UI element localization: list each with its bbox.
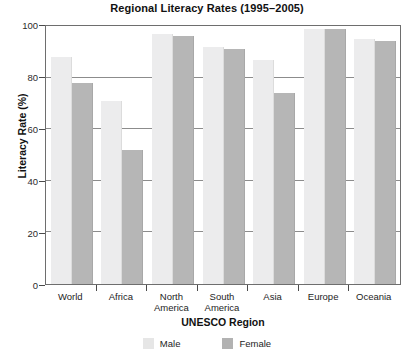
legend-label-female: Female [239, 338, 271, 349]
bar-africa-female [122, 150, 143, 284]
x-axis-category-line1: South [197, 291, 248, 302]
x-axis-category-line1: Europe [298, 291, 349, 302]
x-axis-category-south-america: SouthAmerica [197, 291, 248, 313]
x-axis-category-line1: Asia [247, 291, 298, 302]
bar-europe-female [325, 29, 346, 284]
bar-north-america-female [173, 36, 194, 284]
y-tick-mark-0 [39, 285, 45, 286]
x-axis-label: UNESCO Region [45, 316, 401, 328]
legend-swatch-male-icon [143, 338, 154, 349]
legend-swatch-female-icon [222, 338, 233, 349]
bar-south-america-male [203, 47, 224, 284]
y-tick-label-80: 80 [0, 72, 38, 83]
x-axis-category-oceania: Oceania [348, 291, 399, 302]
chart-title: Regional Literacy Rates (1995–2005) [0, 2, 414, 14]
plot-area [45, 25, 401, 285]
y-tick-label-0: 0 [0, 280, 38, 291]
x-axis-category-line1: World [45, 291, 96, 302]
x-axis-category-line1: North [146, 291, 197, 302]
bar-world-female [72, 83, 93, 284]
x-axis-category-asia: Asia [247, 291, 298, 302]
y-tick-label-60: 60 [0, 124, 38, 135]
bar-south-america-female [224, 49, 245, 284]
x-axis-category-line1: Oceania [348, 291, 399, 302]
y-tick-label-100: 100 [0, 20, 38, 31]
legend-entry-male: Male [143, 338, 181, 349]
bar-oceania-female [375, 41, 396, 284]
x-axis-category-line2: America [146, 302, 197, 313]
x-axis-category-north-america: NorthAmerica [146, 291, 197, 313]
x-axis-category-world: World [45, 291, 96, 302]
x-axis-category-europe: Europe [298, 291, 349, 302]
bar-north-america-male [152, 34, 173, 284]
legend-entry-female: Female [222, 338, 271, 349]
bar-europe-male [304, 29, 325, 284]
x-axis-category-line2: America [197, 302, 248, 313]
bar-world-male [51, 57, 72, 284]
legend-label-male: Male [160, 338, 181, 349]
y-tick-label-40: 40 [0, 176, 38, 187]
chart-figure: Regional Literacy Rates (1995–2005) Lite… [0, 0, 414, 362]
x-axis-category-africa: Africa [96, 291, 147, 302]
bar-oceania-male [354, 39, 375, 284]
bar-asia-female [274, 93, 295, 284]
chart-legend: Male Female [0, 338, 414, 349]
y-tick-label-20: 20 [0, 228, 38, 239]
x-axis-category-line1: Africa [96, 291, 147, 302]
bar-asia-male [253, 60, 274, 284]
bar-africa-male [101, 101, 122, 284]
